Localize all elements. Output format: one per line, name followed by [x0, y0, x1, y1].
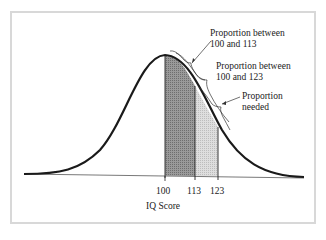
annotation-100-123-line1: Proportion between	[216, 61, 291, 72]
arrowhead-3	[222, 101, 226, 105]
annotation-100-113-line2: 100 and 113	[210, 39, 285, 50]
x-axis-label: IQ Score	[146, 201, 180, 212]
tick-label-123: 123	[210, 186, 224, 197]
annotation-proportion-needed: Proportion needed	[242, 91, 283, 112]
annotation-100-123-line2: 100 and 123	[216, 72, 291, 83]
annotation-100-113: Proportion between 100 and 113	[210, 28, 285, 49]
annotation-needed-line2: needed	[242, 102, 283, 113]
tick-label-100: 100	[156, 186, 170, 197]
x-axis-baseline	[24, 174, 304, 178]
annotation-100-113-line1: Proportion between	[210, 28, 285, 39]
tick-label-113: 113	[187, 186, 201, 197]
leader-arrow-1	[192, 41, 211, 63]
annotation-needed-line1: Proportion	[242, 91, 283, 102]
annotation-100-123: Proportion between 100 and 123	[216, 61, 291, 82]
